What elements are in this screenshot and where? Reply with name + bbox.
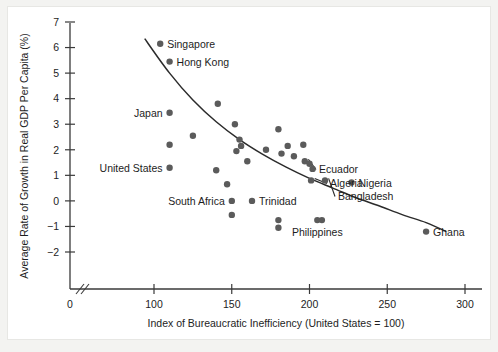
y-tick-label: 4	[53, 92, 59, 104]
label-ghana: Ghana	[433, 226, 465, 238]
x-tick-label: 250	[378, 298, 396, 310]
x-axis-title: Index of Bureaucratic Inefficiency (Unit…	[148, 317, 405, 329]
y-tick-label: 1	[53, 169, 59, 181]
data-point	[275, 225, 281, 231]
y-tick-label: 2	[53, 144, 59, 156]
data-point	[233, 148, 239, 154]
data-point-united-states	[166, 165, 172, 171]
data-point	[275, 217, 281, 223]
data-point	[215, 101, 221, 107]
figure-root: −2−101234567 0100150200250300 SingaporeH…	[0, 0, 498, 352]
y-tick-label: 3	[53, 118, 59, 130]
y-tick-label: −1	[47, 220, 59, 232]
label-bangladesh: Bangladesh	[338, 190, 394, 202]
data-point	[232, 121, 238, 127]
data-point	[166, 142, 172, 148]
data-point	[285, 143, 291, 149]
label-nigeria: Nigeria	[359, 177, 392, 189]
data-point-algeria	[308, 177, 314, 183]
data-point	[224, 181, 230, 187]
x-tick-label: 300	[456, 298, 474, 310]
data-point	[319, 217, 325, 223]
y-tick-label: −2	[47, 246, 59, 258]
y-tick-label: 7	[53, 16, 59, 28]
y-axis-ticks: −2−101234567	[47, 16, 75, 258]
data-point	[229, 212, 235, 218]
plot-card: −2−101234567 0100150200250300 SingaporeH…	[8, 7, 490, 339]
y-tick-label: 6	[53, 41, 59, 53]
data-point	[278, 150, 284, 156]
data-point	[238, 143, 244, 149]
label-hong-kong: Hong Kong	[177, 56, 230, 68]
x-tick-label: 150	[223, 298, 241, 310]
data-point-trinidad	[249, 198, 255, 204]
label-ecuador: Ecuador	[319, 163, 359, 175]
axes	[70, 23, 482, 294]
label-philippines: Philippines	[292, 226, 343, 238]
y-axis-title: Average Rate of Growth in Real GDP Per C…	[18, 33, 30, 278]
data-point	[244, 158, 250, 164]
y-tick-label: 5	[53, 67, 59, 79]
label-south-africa: South Africa	[168, 195, 225, 207]
data-point	[190, 133, 196, 139]
scatter-chart: −2−101234567 0100150200250300 SingaporeH…	[8, 7, 490, 339]
x-tick-label: 0	[67, 298, 73, 310]
data-point-hong-kong	[166, 58, 172, 64]
data-point-south-africa	[229, 198, 235, 204]
data-point	[213, 167, 219, 173]
data-point	[291, 153, 297, 159]
label-trinidad: Trinidad	[259, 195, 297, 207]
x-tick-label: 200	[301, 298, 319, 310]
data-point	[300, 142, 306, 148]
data-point	[263, 147, 269, 153]
data-point	[236, 136, 242, 142]
data-point-ghana	[423, 228, 429, 234]
x-tick-label: 100	[145, 298, 163, 310]
label-united-states: United States	[100, 162, 163, 174]
data-point-bangladesh	[322, 177, 328, 183]
data-point-singapore	[157, 41, 163, 47]
data-point	[275, 126, 281, 132]
label-japan: Japan	[134, 107, 163, 119]
x-axis-ticks: 0100150200250300	[67, 284, 474, 310]
data-point-japan	[166, 110, 172, 116]
label-singapore: Singapore	[167, 38, 215, 50]
data-point-labels: SingaporeHong KongJapanUnited StatesSout…	[100, 38, 465, 238]
y-tick-label: 0	[53, 195, 59, 207]
data-point	[309, 166, 315, 172]
